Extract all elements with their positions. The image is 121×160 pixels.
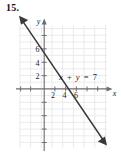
y-tick-label-2: 2 [35, 72, 39, 81]
equation-term-y: y [75, 72, 80, 82]
grid-lines [20, 25, 107, 148]
y-axis [42, 19, 47, 152]
svg-text:x + y: x + y = 7 [58, 72, 97, 82]
x-tick-label-2: 2 [51, 91, 55, 100]
equation-operator-plus: + [67, 72, 72, 82]
equation-label: x + y = 7 [58, 72, 97, 82]
equation-value-seven: 7 [93, 72, 97, 82]
x-axis-name-label: x [112, 89, 117, 98]
x-tick-label-4: 4 [63, 91, 67, 100]
figure-container: 15. [0, 0, 121, 160]
equation-term-x: x [58, 72, 63, 82]
y-axis-name-label: y [36, 17, 41, 26]
x-axis-arrow-icon [107, 86, 113, 91]
problem-number-label: 15. [6, 2, 19, 14]
y-axis-arrow-icon [42, 19, 47, 25]
coordinate-plane-plot: 2 4 6 2 4 6 x y x + y [0, 14, 121, 160]
y-tick-label-4: 4 [35, 59, 39, 68]
plot-svg: 2 4 6 2 4 6 x y x + y [0, 14, 121, 160]
y-tick-label-6: 6 [35, 45, 39, 54]
equation-operator-equals: = [84, 72, 89, 82]
